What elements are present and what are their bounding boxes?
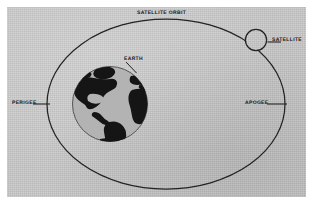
label-satellite-orbit: SATELLITE ORBIT: [137, 11, 186, 16]
label-apogee: APOGEE: [245, 101, 269, 106]
label-satellite: SATELLITE: [272, 38, 302, 43]
label-perigee: PERIGEE: [12, 101, 37, 106]
satellite-orbit-figure: SATELLITE ORBIT SATELLITE APOGEE PERIGEE…: [0, 0, 316, 208]
label-earth: EARTH: [124, 57, 143, 62]
satellite-body: [245, 29, 266, 50]
